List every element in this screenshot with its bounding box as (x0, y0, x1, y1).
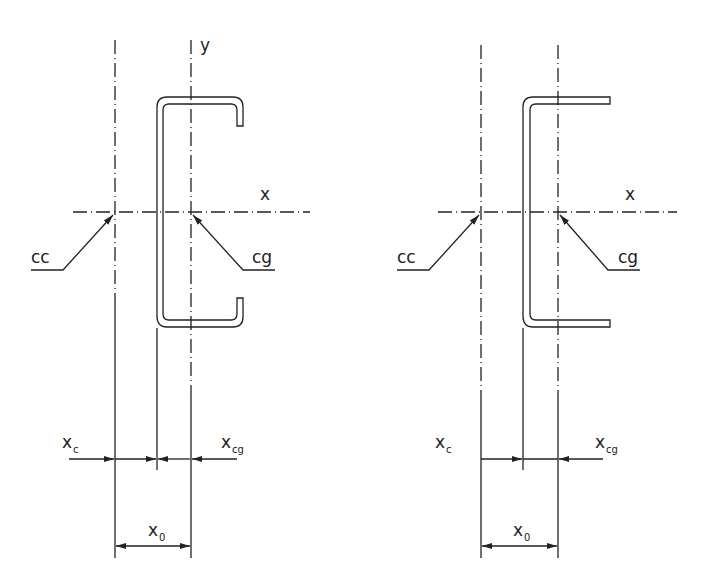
xc-subscript: c (73, 444, 79, 455)
xcg-main: x (221, 432, 231, 452)
xcg-subscript: cg (232, 444, 244, 455)
x-axis-label: x (625, 186, 635, 203)
y-axis-label: y (200, 37, 210, 54)
x-axis-label: x (260, 186, 270, 203)
xc-main: x (435, 432, 445, 452)
xc-main: x (62, 432, 72, 452)
right-figure (397, 45, 677, 558)
diagram-canvas (0, 0, 702, 588)
x0-main: x (513, 520, 523, 540)
left-figure (31, 40, 310, 558)
xc-label: xc (435, 434, 452, 451)
x0-subscript: 0 (524, 532, 530, 543)
shear-center-label: cc (31, 249, 50, 266)
x0-subscript: 0 (159, 532, 165, 543)
shear-center-label: cc (397, 249, 416, 266)
xcg-label: xcg (221, 434, 244, 451)
xcg-subscript: cg (606, 444, 618, 455)
xc-subscript: c (446, 444, 452, 455)
xcg-label: xcg (595, 434, 618, 451)
xcg-main: x (595, 432, 605, 452)
x0-label: x0 (513, 522, 530, 539)
x0-label: x0 (148, 522, 165, 539)
x0-main: x (148, 520, 158, 540)
centroid-label: cg (618, 249, 638, 266)
xc-label: xc (62, 434, 79, 451)
centroid-label: cg (252, 249, 272, 266)
